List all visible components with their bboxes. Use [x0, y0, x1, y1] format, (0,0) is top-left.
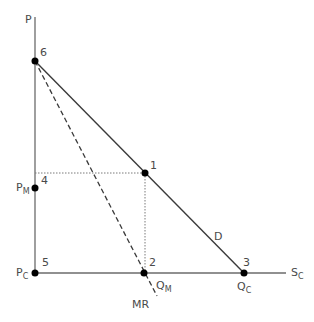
point-label-1: 1	[150, 159, 157, 172]
monopoly-diagram: 6 1 4 5 2 3 P PM PC SC QC QM D MR	[0, 0, 314, 322]
supply-label: SC	[291, 266, 304, 281]
point-4	[32, 185, 39, 192]
demand-label: D	[214, 230, 222, 243]
point-5	[32, 270, 39, 277]
competitive-quantity-label: QC	[237, 280, 252, 295]
point-label-2: 2	[149, 256, 156, 269]
price-axis-label: P	[25, 13, 32, 26]
monopoly-price-label: PM	[16, 181, 30, 196]
point-label-4: 4	[41, 174, 48, 187]
demand-curve	[35, 61, 244, 273]
point-2	[141, 270, 148, 277]
point-label-6: 6	[40, 46, 47, 59]
marginal-revenue-curve	[35, 61, 157, 296]
competitive-price-label: PC	[16, 266, 29, 281]
point-6	[32, 58, 39, 65]
marginal-revenue-label: MR	[132, 298, 149, 311]
point-1	[142, 170, 149, 177]
monopoly-quantity-label: QM	[156, 279, 172, 294]
point-label-3: 3	[243, 256, 250, 269]
point-label-5: 5	[42, 256, 49, 269]
point-3	[241, 270, 248, 277]
